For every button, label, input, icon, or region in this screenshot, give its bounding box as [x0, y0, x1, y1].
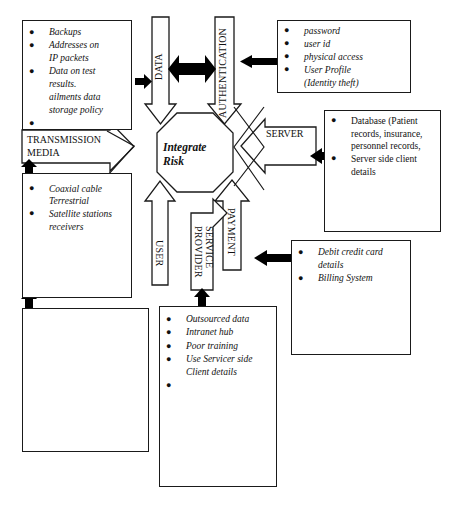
bullet-icon: ● [298, 272, 303, 284]
bullet-icon: ● [166, 353, 171, 365]
list-item-label: Intranet hub [186, 326, 276, 339]
bullet-icon: ● [166, 313, 171, 325]
list-item: ●physical access [278, 51, 410, 64]
list-item-label: password [304, 25, 410, 38]
server-risks-box[interactable]: ●Database (Patient records, insurance, p… [324, 110, 441, 232]
bullet-icon: ● [29, 26, 34, 38]
data-feed-solid-arrow [135, 74, 152, 89]
bullet-icon: ● [166, 340, 171, 352]
payment-risks-list: ●Debit credit card details●Billing Syste… [292, 246, 410, 285]
authentication-risks-list: ●password●user id●physical access●User P… [278, 25, 410, 90]
list-item-label: physical access [304, 51, 410, 64]
list-item-label: Coaxial cable Terrestrial [49, 183, 131, 208]
list-item-label: User Profile (Identity theft) [304, 64, 410, 89]
bullet-icon: ● [284, 38, 289, 50]
payment-risks-box[interactable]: ●Debit credit card details●Billing Syste… [291, 240, 411, 355]
bullet-icon: ● [331, 153, 336, 165]
list-item: ●Database (Patient records, insurance, p… [325, 115, 440, 153]
bullet-icon: ● [29, 117, 34, 129]
list-item: ●Intranet hub [160, 326, 276, 339]
authentication-risks-box[interactable]: ●password●user id●physical access●User P… [277, 20, 411, 93]
authentication-feed-solid-arrow [240, 55, 278, 68]
bullet-icon: ● [166, 379, 171, 391]
list-item: ●password [278, 25, 410, 38]
channel-label-authentication: AUTHENTICATION [217, 22, 228, 118]
list-item-label: Backups [49, 26, 131, 39]
list-item-label: Server side client details [351, 153, 440, 178]
integrate-risk-label: Integrate Risk [163, 140, 227, 168]
list-item: ●Coaxial cable Terrestrial [23, 183, 131, 208]
channel-label-server: SERVER [266, 128, 304, 139]
list-item: ●Data on test results. ailments data sto… [23, 65, 131, 116]
user-risks-box[interactable] [22, 308, 149, 452]
channel-label-transmission-media: TRANSMISSION MEDIA [27, 134, 101, 159]
data-risks-box[interactable]: ●Backups●Addresses on IP packets●Data on… [22, 20, 132, 130]
list-item: ●Backups [23, 26, 131, 39]
server-risks-list: ●Database (Patient records, insurance, p… [325, 115, 440, 179]
list-item-label: Debit credit card details [318, 246, 410, 272]
bullet-icon: ● [284, 51, 289, 63]
list-item-label: Data on test results. ailments data stor… [49, 65, 131, 116]
channel-label-service-provider: SERVICE PROVIDER [192, 226, 215, 288]
list-item-label: Outsourced data [186, 313, 276, 326]
list-item-label: Satellite stations receivers [49, 208, 131, 233]
bullet-icon: ● [29, 65, 34, 77]
payment-feed-solid-arrow [254, 250, 292, 266]
bullet-icon: ● [284, 64, 289, 76]
service-provider-risks-box[interactable]: ●Outsourced data●Intranet hub●Poor train… [159, 306, 277, 487]
list-item: ●Debit credit card details [292, 246, 410, 272]
list-item: ●User Profile (Identity theft) [278, 64, 410, 89]
list-item: ●user id [278, 38, 410, 51]
list-item: ●Outsourced data [160, 313, 276, 326]
list-item: ●Use Servicer side Client details [160, 353, 276, 379]
bullet-icon: ● [29, 208, 34, 220]
list-item: ●Addresses on IP packets [23, 39, 131, 65]
list-item-label: Addresses on IP packets [49, 39, 131, 65]
list-item-label: Billing System [318, 272, 410, 285]
list-item-label: Poor training [186, 340, 276, 353]
list-item: ●Poor training [160, 340, 276, 353]
list-item: ●Billing System [292, 272, 410, 285]
channel-label-data: DATA [153, 22, 164, 80]
bullet-icon: ● [298, 246, 303, 258]
bullet-icon: ● [29, 39, 34, 51]
bullet-icon: ● [284, 25, 289, 37]
bullet-icon: ● [166, 326, 171, 338]
data-authentication-double-arrow [168, 55, 216, 83]
bullet-icon: ● [29, 183, 34, 195]
diagram-canvas: Integrate Risk DATA AUTHENTICATION SERVE… [0, 0, 457, 506]
channel-label-user: USER [154, 240, 165, 280]
list-item-label: user id [304, 38, 410, 51]
data-risks-list: ●Backups●Addresses on IP packets●Data on… [23, 26, 131, 117]
transmission-media-risks-box[interactable]: ●Coaxial cable Terrestrial●Satellite sta… [22, 173, 132, 298]
service-provider-risks-list: ●Outsourced data●Intranet hub●Poor train… [160, 313, 276, 379]
list-item-label: Use Servicer side Client details [186, 353, 276, 379]
list-item: ●Server side client details [325, 153, 440, 178]
channel-label-payment: PAYMENT [226, 208, 237, 266]
bullet-icon: ● [331, 115, 336, 127]
transmission-media-risks-list: ●Coaxial cable Terrestrial●Satellite sta… [23, 183, 131, 233]
list-item: ●Satellite stations receivers [23, 208, 131, 233]
list-item-label: Database (Patient records, insurance, pe… [351, 115, 440, 153]
